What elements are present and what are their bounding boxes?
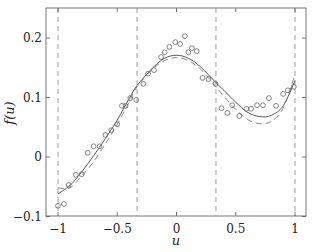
y-tick-label: 0.1 [23, 91, 42, 105]
sample-point [182, 34, 187, 39]
sample-point [255, 103, 260, 108]
x-tick-label: −1 [49, 222, 67, 236]
sample-point [244, 106, 249, 111]
sample-point [73, 172, 78, 177]
y-axis-ticks: −0.100.10.2 [13, 31, 306, 224]
sample-point [281, 92, 286, 97]
sample-point [152, 68, 157, 73]
sample-point [173, 40, 178, 45]
vertical-dashed-lines [58, 8, 295, 216]
sample-point [237, 114, 242, 119]
solid-fit-curve [58, 55, 295, 194]
sample-point [141, 81, 146, 86]
x-axis-ticks: −1−0.500.51 [49, 8, 299, 236]
sample-point [249, 106, 254, 111]
sample-point [186, 50, 191, 55]
dashed-fit-curve [58, 58, 295, 189]
y-tick-label: −0.1 [13, 210, 42, 224]
y-axis-label: f(u) [2, 101, 17, 125]
sample-point [194, 49, 199, 54]
plot-area: −1−0.500.51 −0.100.10.2 [13, 8, 306, 236]
x-tick-label: 1 [291, 222, 299, 236]
fit-curves [58, 55, 295, 194]
sample-point [91, 144, 96, 149]
y-tick-label: 0.2 [23, 31, 42, 45]
x-tick-label: −0.5 [103, 222, 132, 236]
sample-point [225, 111, 230, 116]
sample-point [134, 97, 139, 102]
sample-point [190, 46, 195, 51]
sample-point [162, 50, 167, 55]
sample-point [219, 106, 224, 111]
sample-point [274, 103, 279, 108]
x-tick-label: 0.5 [226, 222, 245, 236]
sample-point [261, 103, 266, 108]
sample-point [62, 202, 67, 207]
y-tick-label: 0 [34, 150, 42, 164]
x-axis-label: u [172, 233, 180, 248]
sample-markers [56, 34, 297, 208]
sample-point [267, 96, 272, 101]
sample-point [85, 150, 90, 155]
sample-point [167, 45, 172, 50]
axes-frame [46, 8, 306, 216]
sample-point [103, 133, 108, 138]
sample-point [178, 42, 183, 47]
sample-point [200, 75, 205, 80]
chart: −1−0.500.51 −0.100.10.2 u f(u) [0, 0, 313, 252]
sample-point [159, 55, 164, 60]
